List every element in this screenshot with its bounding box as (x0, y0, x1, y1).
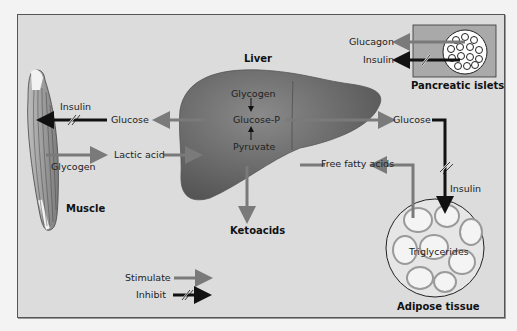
liver-glycogen-label: Glycogen (231, 89, 276, 99)
liver-pyruvate-label: Pyruvate (233, 142, 275, 152)
liver-glucose-out-label: Glucose (393, 115, 431, 125)
muscle-insulin-label: Insulin (60, 102, 91, 112)
adipose-insulin-label: Insulin (450, 184, 481, 194)
liver-shape (179, 70, 380, 200)
muscle-glucose-label: Glucose (111, 115, 149, 125)
liver-label: Liver (244, 54, 272, 64)
lactic-acid-label: Lactic acid (114, 150, 165, 160)
muscle-glycogen-label: Glycogen (51, 162, 96, 172)
triglycerides-label: Triglycerides (409, 247, 469, 257)
muscle-shape (28, 70, 59, 231)
free-fatty-acids-label: Free fatty acids (321, 159, 394, 169)
legend-inhibit-label: Inhibit (136, 290, 166, 300)
glucagon-label: Glucagon (349, 37, 394, 47)
pancreas-image (413, 25, 496, 77)
liver-glucose-p-label: Glucose-P (233, 115, 280, 125)
muscle-label: Muscle (66, 204, 105, 214)
ketoacids-label: Ketoacids (230, 226, 285, 236)
pancreatic-islets-label: Pancreatic islets (411, 81, 504, 91)
pancreas-insulin-label: Insulin (363, 55, 394, 65)
adipose-tissue-label: Adipose tissue (397, 302, 480, 312)
legend-arrows (173, 278, 207, 300)
legend-stimulate-label: Stimulate (125, 273, 171, 283)
